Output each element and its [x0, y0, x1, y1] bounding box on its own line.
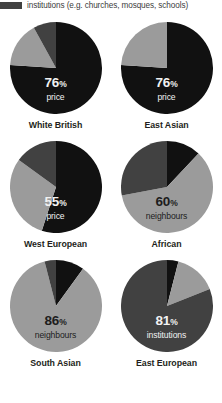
- pie-cell-west-european: 55%priceWest European: [0, 141, 111, 249]
- legend-label-institutions: institutions (e.g. churches, mosques, sc…: [27, 1, 188, 10]
- pie-slice-neighbours: [121, 22, 167, 68]
- pie-group-name: West European: [24, 239, 87, 249]
- pie-chart-south-asian: 86%neighbours: [10, 260, 102, 352]
- pie-group-name: African: [152, 239, 182, 249]
- pie-cell-african: 60%neighboursAfrican: [111, 141, 222, 249]
- legend-swatch-institutions: [0, 2, 22, 9]
- pie-chart-west-european: 55%price: [10, 141, 102, 233]
- pie-chart-grid: 76%priceWhite British76%priceEast Asian5…: [0, 22, 222, 368]
- pie-cell-east-european: 81%institutionsEast European: [111, 260, 222, 368]
- pie-group-name: East Asian: [144, 120, 188, 130]
- pie-cell-south-asian: 86%neighboursSouth Asian: [0, 260, 111, 368]
- pie-chart-white-british: 76%price: [10, 22, 102, 114]
- legend: institutions (e.g. churches, mosques, sc…: [0, 0, 222, 11]
- pie-cell-white-british: 76%priceWhite British: [0, 22, 111, 130]
- pie-group-name: White British: [29, 120, 83, 130]
- pie-slice-institutions: [121, 141, 167, 196]
- pie-chart-african: 60%neighbours: [121, 141, 213, 233]
- row-spacer: [0, 130, 222, 141]
- pie-chart-east-european: 81%institutions: [121, 260, 213, 352]
- pie-group-name: South Asian: [30, 358, 80, 368]
- row-spacer: [0, 249, 222, 260]
- pie-group-name: East European: [136, 358, 197, 368]
- pie-chart-east-asian: 76%price: [121, 22, 213, 114]
- pie-cell-east-asian: 76%priceEast Asian: [111, 22, 222, 130]
